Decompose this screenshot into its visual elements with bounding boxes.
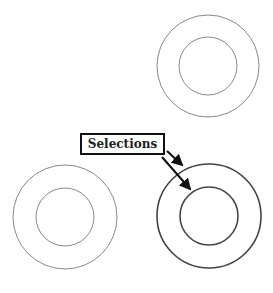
ring-bottom-right-selected[interactable] bbox=[157, 164, 261, 268]
outer-circle[interactable] bbox=[13, 165, 117, 269]
callout-text: Selections bbox=[88, 137, 157, 151]
ring-top-right[interactable] bbox=[157, 15, 259, 117]
arrow-to-inner-circle bbox=[162, 157, 190, 189]
selections-callout-label: Selections bbox=[80, 133, 165, 155]
inner-circle-selected[interactable] bbox=[180, 187, 238, 245]
arrow-to-outer-circle bbox=[167, 151, 182, 165]
outer-circle-selected[interactable] bbox=[157, 164, 261, 268]
outer-circle[interactable] bbox=[157, 15, 259, 117]
inner-circle[interactable] bbox=[36, 188, 94, 246]
inner-circle[interactable] bbox=[179, 37, 237, 95]
ring-bottom-left[interactable] bbox=[13, 165, 117, 269]
